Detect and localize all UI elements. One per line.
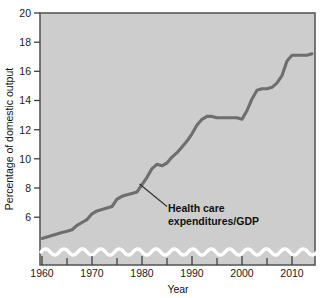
y-axis-tick-labels: 20 18 16 14 12 10 8 6 <box>19 7 31 223</box>
y-tick-label: 20 <box>19 7 31 19</box>
x-tick-label: 1960 <box>30 267 54 279</box>
x-tick-label: 1980 <box>130 267 154 279</box>
x-tick-label: 2000 <box>230 267 254 279</box>
x-axis-tick-labels: 1960 1970 1980 1990 2000 2010 <box>30 267 304 279</box>
x-tick-label: 2010 <box>280 267 304 279</box>
x-tick-label: 1970 <box>80 267 104 279</box>
y-tick-label: 10 <box>19 153 31 165</box>
y-tick-label: 18 <box>19 36 31 48</box>
y-axis-ticks <box>34 13 40 217</box>
plot-background <box>40 13 315 265</box>
x-axis-title: Year <box>167 283 189 295</box>
x-tick-label: 1990 <box>180 267 204 279</box>
y-tick-label: 12 <box>19 124 31 136</box>
y-tick-label: 14 <box>19 94 31 106</box>
y-tick-label: 16 <box>19 65 31 77</box>
annotation-line-2: expenditures/GDP <box>168 215 259 227</box>
y-tick-label: 6 <box>25 211 31 223</box>
chart-figure: 20 18 16 14 12 10 8 6 Percentage of dome… <box>0 0 327 298</box>
health-care-gdp-line-chart: 20 18 16 14 12 10 8 6 Percentage of dome… <box>0 0 327 298</box>
y-axis-title: Percentage of domestic output <box>3 68 15 211</box>
annotation-line-1: Health care <box>168 202 225 214</box>
y-tick-label: 8 <box>25 182 31 194</box>
